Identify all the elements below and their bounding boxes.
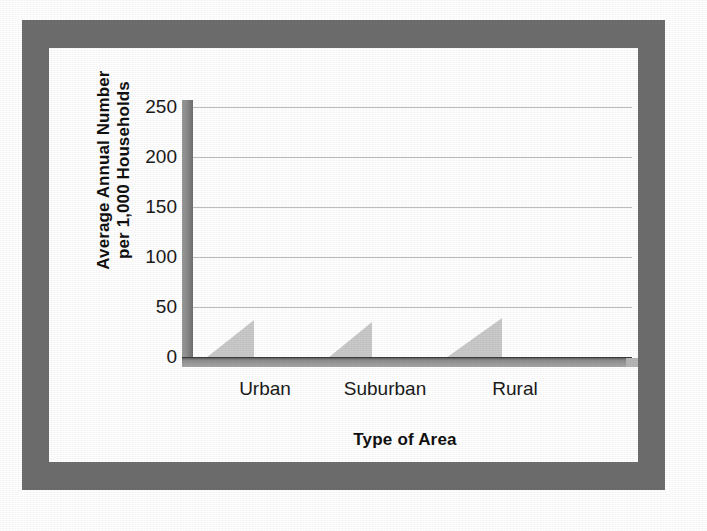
y-tick-200: 200 bbox=[117, 147, 177, 166]
floor-right-bevel bbox=[626, 358, 638, 367]
axis-wall-left bbox=[182, 100, 193, 361]
floor-slab bbox=[182, 358, 632, 367]
gridline-100 bbox=[193, 257, 632, 258]
y-tick-50: 50 bbox=[117, 297, 177, 316]
x-tick-urban: Urban bbox=[205, 378, 325, 400]
plot-region: Average Annual Numberper 1,000 Household… bbox=[0, 0, 707, 531]
bar-shadow-urban bbox=[206, 320, 254, 358]
bar-shadow-rural bbox=[446, 318, 502, 358]
gridline-150 bbox=[193, 207, 632, 208]
y-tick-labels: 250 200 150 100 50 0 bbox=[132, 0, 177, 531]
gridline-50 bbox=[193, 307, 632, 308]
gridline-200 bbox=[193, 157, 632, 158]
x-tick-suburban: Suburban bbox=[325, 378, 445, 400]
gridline-250 bbox=[193, 107, 632, 108]
y-axis-title: Average Annual Numberper 1,000 Household… bbox=[94, 20, 134, 320]
y-tick-150: 150 bbox=[117, 197, 177, 216]
y-tick-100: 100 bbox=[117, 247, 177, 266]
bar-shadow-suburban bbox=[328, 322, 372, 358]
y-axis-title-line1: Average Annual Number bbox=[94, 70, 113, 269]
y-tick-250: 250 bbox=[117, 97, 177, 116]
x-tick-rural: Rural bbox=[455, 378, 575, 400]
x-axis-title: Type of Area bbox=[195, 430, 615, 450]
y-tick-0: 0 bbox=[117, 347, 177, 366]
figure-canvas: Average Annual Numberper 1,000 Household… bbox=[0, 0, 707, 531]
